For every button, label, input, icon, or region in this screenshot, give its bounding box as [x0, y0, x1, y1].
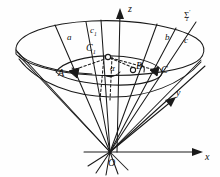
point-label-A: A [58, 68, 64, 78]
lower-nappe-stroke-5 [88, 152, 110, 166]
dashed-axis-segment-left [100, 57, 104, 100]
surface-label-sigma1-prime: Σ′1 [184, 10, 188, 22]
axis-label-x: x [205, 152, 209, 162]
point-label-C1-base: C [86, 42, 93, 53]
origin-marker [108, 150, 112, 154]
cone-diagram-svg [0, 0, 220, 177]
z-axis-arrowhead [116, 8, 124, 19]
point-label-C1-sub: 1 [93, 48, 96, 55]
surface-label-sup: ′ [189, 9, 190, 15]
origin-label-O: O [108, 158, 115, 168]
x-axis-arrowhead [192, 148, 203, 156]
surface-label-sub: 1 [185, 16, 188, 22]
cone-left-edge-2 [19, 56, 110, 152]
line-label-c1: c1 [90, 26, 97, 37]
line-label-a: a [67, 33, 72, 42]
line-label-c1-sub: 1 [94, 31, 97, 37]
geometry-figure: z y x O a c1 b c Σ′1 A B C C1 α [0, 0, 220, 177]
generator-line-c [110, 28, 176, 152]
line-label-c: c [184, 36, 188, 45]
point-C1-marker [105, 54, 110, 59]
point-label-B: B [136, 61, 142, 71]
generator-line-c1 [101, 20, 110, 152]
axis-label-z: z [128, 4, 132, 14]
point-label-C1: C1 [86, 43, 96, 55]
angle-label-alpha: α [110, 64, 115, 73]
axis-label-y: y [176, 88, 180, 98]
point-label-C: C [161, 65, 168, 75]
point-B-marker [130, 67, 135, 72]
z-axis-line [117, 12, 120, 152]
line-label-b: b [165, 33, 170, 42]
